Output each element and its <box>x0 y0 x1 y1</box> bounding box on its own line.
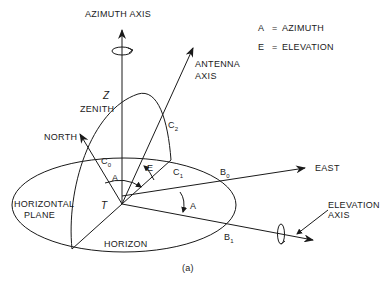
horizontal-plane-label-2: PLANE <box>24 210 55 220</box>
elevation-axis-label-1: ELEVATION <box>328 200 380 210</box>
legend-e-eq: = <box>272 42 278 52</box>
figure-caption: (a) <box>182 263 194 273</box>
c2-label: C2 <box>168 120 179 132</box>
legend-a-meaning: AZIMUTH <box>282 23 324 33</box>
azimuth-angle-arc-2 <box>180 192 184 212</box>
north-label: NORTH <box>44 132 77 142</box>
b0-label: B0 <box>220 167 230 179</box>
azimuth-angle-label: A <box>112 173 118 183</box>
antenna-axis-line <box>122 48 193 204</box>
elevation-axis-label-2: AXIS <box>328 210 350 220</box>
azimuth-rotation-arrowhead-icon <box>128 48 133 53</box>
azimuth-axis-label: AZIMUTH AXIS <box>85 9 151 19</box>
zenith-symbol: Z <box>102 90 110 101</box>
c0-label: C0 <box>101 156 112 168</box>
zenith-great-circle-arc <box>71 93 171 249</box>
legend-a-eq: = <box>272 23 278 33</box>
east-label: EAST <box>315 163 340 173</box>
b1-label: B1 <box>224 232 234 244</box>
antenna-axis-label-2: AXIS <box>195 71 217 81</box>
c1-label: C1 <box>173 167 184 179</box>
azimuth-angle-arc <box>105 180 141 187</box>
elevation-angle-label: E <box>147 163 153 173</box>
north-line <box>80 134 122 204</box>
horizontal-plane-label-1: HORIZONTAL <box>14 199 74 209</box>
legend-e-symbol: E <box>258 42 264 52</box>
antenna-axis-label-1: ANTENNA <box>195 59 240 69</box>
azimuth-elevation-diagram: AZIMUTH AXIS ANTENNA AXIS A = AZIMUTH E … <box>0 0 386 282</box>
elevation-axis-leader <box>297 210 328 234</box>
legend-e-meaning: ELEVATION <box>282 42 334 52</box>
horizon-label: HORIZON <box>104 239 148 249</box>
zenith-label: ZENITH <box>80 104 114 114</box>
origin-label: T <box>101 200 108 211</box>
azimuth-angle-label-2: A <box>190 201 196 211</box>
legend-a-symbol: A <box>258 23 264 33</box>
